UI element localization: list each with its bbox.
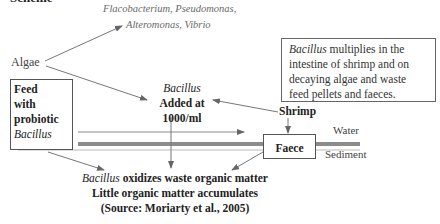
bottom-line2: Little organic matter accumulates [40, 186, 310, 201]
info-box-line1-text: multiplies in the [327, 43, 405, 55]
water-sediment-bar-right [316, 142, 360, 146]
info-box-line4: feed pellets and faeces. [289, 87, 435, 102]
arrow-algae-to-bacteria [45, 26, 122, 61]
bacteria-list-line2: Alteromonas, Vibrio [126, 19, 211, 30]
feed-box: Feed with probiotic Bacillus [10, 79, 73, 150]
feed-box-line1: Feed [14, 82, 72, 97]
info-box-line2: intestine of shrimp and on [289, 57, 435, 72]
shrimp-label: Shrimp [279, 105, 316, 117]
info-box: Bacillus multiplies in the intestine of … [281, 38, 436, 102]
bacillus-added-label: Bacillus Added at 1000/ml [148, 81, 216, 126]
algae-label: Algae [11, 55, 40, 70]
info-box-line3: decaying algae and waste [289, 72, 435, 87]
bottom-line1-text: oxidizes waste organic matter [120, 172, 268, 184]
feed-box-line2: with [14, 97, 72, 112]
top-title-fragment: Scheme [10, 0, 53, 6]
faece-box: Faece [263, 134, 316, 159]
bacteria-list-line1: Flacobacterium, Pseudomonas, [103, 3, 236, 14]
sediment-label: Sediment [325, 148, 367, 160]
arrow-shrimp-to-bacillus [213, 100, 278, 112]
bacillus-added-line2: Added at [148, 96, 216, 111]
faece-label: Faece [275, 142, 303, 154]
arrow-feed-to-bottom [48, 152, 104, 170]
bacillus-added-line3: 1000/ml [148, 111, 216, 126]
bottom-source: (Source: Moriarty et al., 2005) [40, 201, 310, 216]
bottom-bacillus: Bacillus [82, 172, 120, 184]
feed-box-line3: probiotic [14, 112, 72, 127]
water-label: Water [333, 124, 359, 136]
bottom-line1: Bacillus oxidizes waste organic matter [40, 171, 310, 186]
info-box-line1: Bacillus multiplies in the [289, 42, 435, 57]
feed-box-line4: Bacillus [14, 127, 72, 142]
arrow-faece-to-bottom [232, 152, 263, 170]
info-box-bacillus: Bacillus [289, 43, 327, 55]
bottom-summary: Bacillus oxidizes waste organic matter L… [40, 171, 310, 216]
bacillus-added-line1: Bacillus [148, 81, 216, 96]
